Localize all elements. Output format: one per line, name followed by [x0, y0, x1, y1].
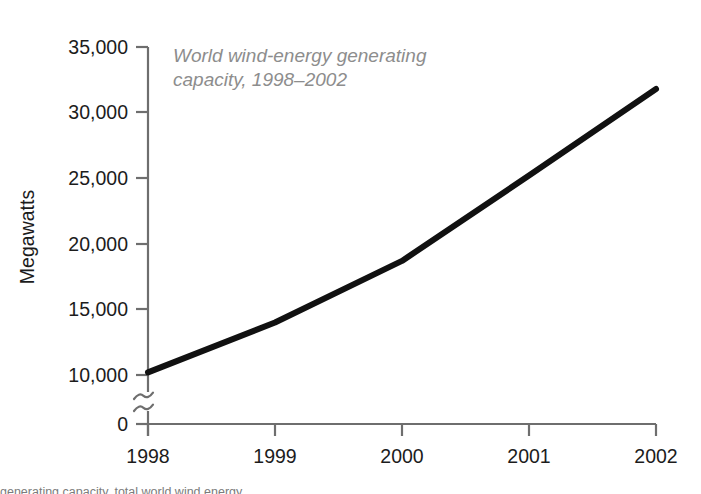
x-tick-label-1998: 1998 [126, 445, 169, 467]
y-tick-label-10000: 10,000 [68, 364, 128, 386]
y-tick-label-15000: 15,000 [68, 298, 128, 320]
y-tick-label-0: 0 [117, 413, 128, 435]
y-tick-label-25000: 25,000 [68, 167, 128, 189]
y-tick-label-30000: 30,000 [68, 101, 128, 123]
y-axis-title: Megawatts [16, 190, 38, 285]
line-chart: 35,000 30,000 25,000 20,000 15,000 10,00… [0, 0, 701, 494]
cropped-caption: generating capacity, total world wind en… [0, 486, 460, 494]
x-tick-label-2000: 2000 [380, 445, 424, 467]
x-tick-label-2002: 2002 [634, 445, 677, 467]
y-tick-label-35000: 35,000 [68, 36, 128, 58]
chart-title-line-2: capacity, 1998–2002 [173, 69, 347, 90]
x-tick-label-1999: 1999 [253, 445, 296, 467]
x-tick-label-2001: 2001 [507, 445, 550, 467]
chart-figure: 35,000 30,000 25,000 20,000 15,000 10,00… [0, 0, 701, 494]
y-tick-label-20000: 20,000 [68, 233, 128, 255]
chart-title-line-1: World wind-energy generating [173, 45, 427, 66]
